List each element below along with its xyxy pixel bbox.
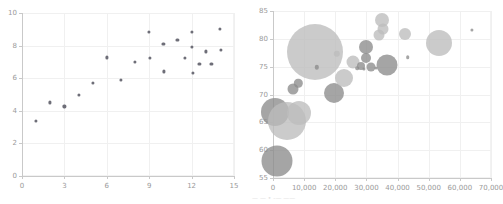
gridline-vertical (107, 13, 108, 176)
y-tick-mark (19, 13, 22, 14)
x-axis-line (273, 178, 491, 179)
x-tick-label: 60,000 (448, 184, 473, 192)
x-tick-label: 12 (187, 182, 196, 190)
gridline-horizontal (22, 111, 234, 112)
x-tick-mark (234, 176, 235, 179)
bubble-marker (359, 40, 373, 54)
x-tick-mark (192, 176, 193, 179)
x-tick-label: 0 (271, 184, 275, 192)
y-tick-label: 70 (259, 91, 268, 99)
x-tick-label: 10,000 (292, 184, 317, 192)
gridline-horizontal (273, 11, 491, 12)
x-tick-mark (273, 178, 274, 181)
gridline-horizontal (22, 143, 234, 144)
x-axis-line (22, 176, 234, 177)
y-tick-mark (19, 176, 22, 177)
y-tick-label: 10 (8, 9, 17, 17)
y-tick-mark (19, 46, 22, 47)
y-tick-label: 0 (13, 172, 17, 180)
bubble-marker (376, 54, 397, 75)
gridline-vertical (192, 13, 193, 176)
x-tick-mark (304, 178, 305, 181)
y-tick-mark (270, 95, 273, 96)
y-tick-label: 4 (13, 107, 17, 115)
x-tick-mark (22, 176, 23, 179)
x-tick-mark (107, 176, 108, 179)
y-tick-label: 85 (259, 7, 268, 15)
x-tick-mark (460, 178, 461, 181)
y-tick-label: 80 (259, 35, 268, 43)
x-tick-label: 40,000 (385, 184, 410, 192)
y-tick-mark (270, 178, 273, 179)
y-tick-mark (270, 67, 273, 68)
gridline-vertical (234, 13, 235, 176)
y-tick-label: 2 (13, 139, 17, 147)
bubble-marker (406, 55, 410, 59)
gridline-vertical (64, 13, 65, 176)
y-tick-label: 6 (13, 74, 17, 82)
gridline-horizontal (273, 95, 491, 96)
bubble-marker (287, 101, 311, 125)
y-tick-mark (270, 11, 273, 12)
x-tick-label: 30,000 (354, 184, 379, 192)
gridline-horizontal (22, 78, 234, 79)
chart-panel-scatter: 036912150246810 (0, 0, 250, 204)
y-tick-label: 8 (13, 42, 17, 50)
x-tick-mark (335, 178, 336, 181)
y-axis-line (22, 13, 23, 176)
figure-caption: — — • -— —— (252, 194, 295, 201)
x-tick-label: 3 (62, 182, 66, 190)
x-tick-label: 15 (230, 182, 239, 190)
x-tick-mark (149, 176, 150, 179)
bubble-marker (261, 146, 292, 177)
gridline-vertical (491, 11, 492, 178)
x-tick-mark (64, 176, 65, 179)
gridline-horizontal (22, 46, 234, 47)
y-tick-mark (19, 143, 22, 144)
y-tick-label: 75 (259, 63, 268, 71)
bubble-marker (378, 24, 389, 35)
x-tick-label: 20,000 (323, 184, 348, 192)
bubble-marker (399, 28, 411, 40)
x-tick-label: 9 (147, 182, 151, 190)
x-tick-label: 6 (105, 182, 109, 190)
x-tick-mark (491, 178, 492, 181)
x-tick-label: 70,000 (479, 184, 503, 192)
x-tick-label: 50,000 (416, 184, 441, 192)
plot-area-scatter (22, 13, 234, 176)
gridline-horizontal (273, 150, 491, 151)
x-tick-mark (398, 178, 399, 181)
gridline-vertical (149, 13, 150, 176)
x-tick-mark (366, 178, 367, 181)
chart-panel-bubble: 010,00020,00030,00040,00050,00060,00070,… (250, 0, 499, 204)
y-tick-mark (19, 111, 22, 112)
bubble-marker (335, 69, 353, 87)
x-tick-mark (429, 178, 430, 181)
gridline-horizontal (22, 13, 234, 14)
y-tick-mark (270, 39, 273, 40)
bubble-marker (426, 30, 452, 56)
y-tick-label: 55 (259, 174, 268, 182)
y-tick-mark (19, 78, 22, 79)
x-tick-label: 0 (20, 182, 24, 190)
